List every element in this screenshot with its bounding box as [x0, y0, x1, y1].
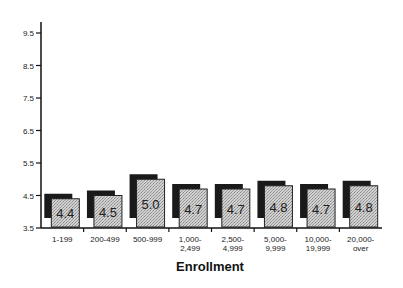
- x-tick-label: 20,000-over: [347, 235, 374, 253]
- y-tick-label: 3.5: [23, 224, 35, 233]
- y-tick-label: 8.5: [23, 62, 35, 71]
- x-tick-label: 500-999: [133, 235, 163, 244]
- x-tick-label: 2,500-4,999: [221, 235, 244, 253]
- data-label: 5.0: [142, 197, 160, 212]
- y-tick-label: 4.5: [23, 192, 35, 201]
- bar-group: 4.7: [300, 184, 335, 227]
- x-axis-title: Enrollment: [176, 259, 245, 274]
- x-tick-label: 1,000-2,499: [179, 235, 202, 253]
- x-tick-label: 200-499: [90, 235, 120, 244]
- data-label: 4.4: [56, 206, 74, 221]
- data-label: 4.7: [184, 202, 202, 217]
- y-tick-label: 6.5: [23, 127, 35, 136]
- data-label: 4.5: [99, 205, 117, 220]
- data-label: 4.7: [227, 202, 245, 217]
- data-label: 4.7: [312, 202, 330, 217]
- x-tick-label: 10,000-19,999: [304, 235, 331, 253]
- bar-group: 4.5: [87, 191, 122, 228]
- y-tick-label: 9.5: [23, 29, 35, 38]
- bar-group: 4.7: [215, 184, 250, 227]
- bars: 4.44.55.04.74.74.84.74.8: [44, 174, 377, 227]
- bar-chart: 3.54.55.56.57.58.59.5 4.44.55.04.74.74.8…: [0, 0, 403, 288]
- bar-group: 4.7: [172, 184, 207, 227]
- bar-group: 4.4: [44, 194, 79, 227]
- x-tick-label: 1-199: [52, 235, 73, 244]
- x-tick-label: 5,000-9,999: [264, 235, 287, 253]
- data-label: 4.8: [355, 200, 373, 215]
- y-axis: 3.54.55.56.57.58.59.5: [23, 22, 41, 233]
- bar-group: 4.8: [257, 181, 292, 227]
- bar-group: 5.0: [130, 174, 165, 227]
- y-tick-label: 5.5: [23, 159, 35, 168]
- y-tick-label: 7.5: [23, 94, 35, 103]
- data-label: 4.8: [269, 200, 287, 215]
- x-axis: 1-199200-499500-9991,000-2,4992,500-4,99…: [41, 228, 382, 253]
- bar-group: 4.8: [343, 181, 378, 227]
